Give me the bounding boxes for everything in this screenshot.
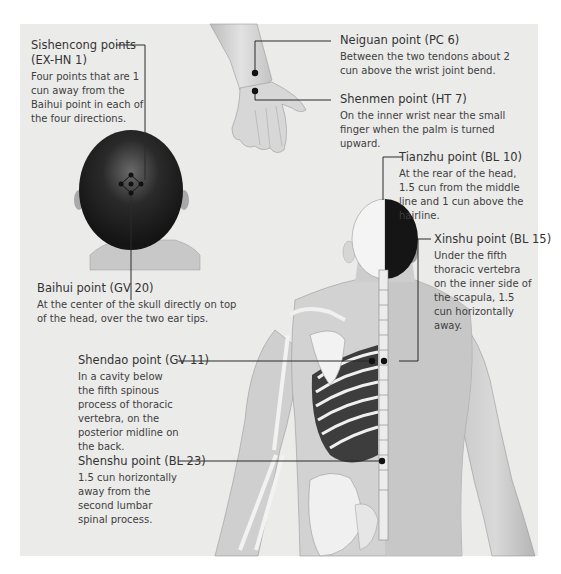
neiguan-description: Between the two tendons about 2 cun abov… (340, 50, 525, 78)
sishencong-label: Sishencong points (EX-HN 1) Four points … (31, 38, 156, 126)
shenshu-description: 1.5 cun horizontally away from the secon… (78, 471, 180, 527)
head-top-view-illustration (74, 130, 200, 270)
shenshu-title: Shenshu point (BL 23) (78, 454, 180, 468)
shendao-description: In a cavity below the fifth spinous proc… (78, 370, 180, 454)
sishencong-description: Four points that are 1 cun away from the… (31, 70, 156, 126)
tianzhu-description: At the rear of the head, 1.5 cun from th… (399, 167, 524, 223)
xinshu-label: Xinshu point (BL 15) Under the fifth tho… (434, 232, 534, 333)
shendao-label: Shendao point (GV 11) In a cavity below … (78, 353, 180, 454)
shenmen-title: Shenmen point (HT 7) (340, 92, 525, 106)
neiguan-label: Neiguan point (PC 6) Between the two ten… (340, 33, 525, 78)
shendao-title: Shendao point (GV 11) (78, 353, 180, 367)
neiguan-title: Neiguan point (PC 6) (340, 33, 525, 47)
baihui-label: Baihui point (GV 20) At the center of th… (37, 281, 242, 326)
tianzhu-title: Tianzhu point (BL 10) (399, 150, 524, 164)
baihui-description: At the center of the skull directly on t… (37, 298, 242, 326)
xinshu-title: Xinshu point (BL 15) (434, 232, 534, 246)
shenmen-description: On the inner wrist near the small finger… (340, 109, 525, 151)
hand-illustration (210, 24, 306, 153)
sishencong-code: (EX-HN 1) (31, 53, 156, 67)
shenmen-label: Shenmen point (HT 7) On the inner wrist … (340, 92, 525, 151)
xinshu-description: Under the fifth thoracic vertebra on the… (434, 249, 534, 333)
shenshu-label: Shenshu point (BL 23) 1.5 cun horizontal… (78, 454, 180, 527)
sishencong-title: Sishencong points (31, 38, 156, 52)
baihui-title: Baihui point (GV 20) (37, 281, 242, 295)
tianzhu-label: Tianzhu point (BL 10) At the rear of the… (399, 150, 524, 223)
